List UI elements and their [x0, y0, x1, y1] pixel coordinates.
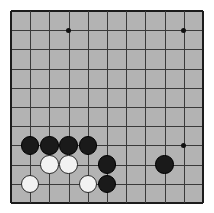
stone-black-1-7[interactable]	[21, 136, 39, 154]
stone-white-4-9[interactable]	[79, 175, 97, 193]
stone-white-1-9[interactable]	[21, 175, 39, 193]
stone-black-8-8[interactable]	[155, 155, 173, 173]
grid-line-vertical-7	[145, 11, 146, 203]
grid-line-vertical-2	[49, 11, 50, 203]
star-point-0	[66, 28, 71, 33]
stone-black-4-7[interactable]	[79, 136, 97, 154]
stone-black-5-9[interactable]	[98, 175, 116, 193]
grid-line-vertical-10	[202, 11, 204, 203]
star-point-2	[181, 143, 186, 148]
stone-black-5-8[interactable]	[98, 155, 116, 173]
stone-black-3-7[interactable]	[59, 136, 77, 154]
grid-line-vertical-6	[126, 11, 127, 203]
grid-line-vertical-8	[165, 11, 166, 203]
stone-white-3-8[interactable]	[59, 155, 77, 173]
grid-line-vertical-9	[184, 11, 185, 203]
grid-line-vertical-0	[10, 11, 12, 203]
grid-line-vertical-3	[69, 11, 70, 203]
go-board[interactable]	[11, 11, 203, 203]
star-point-1	[181, 28, 186, 33]
stone-white-2-8[interactable]	[40, 155, 58, 173]
stone-black-2-7[interactable]	[40, 136, 58, 154]
go-board-app	[0, 0, 214, 213]
